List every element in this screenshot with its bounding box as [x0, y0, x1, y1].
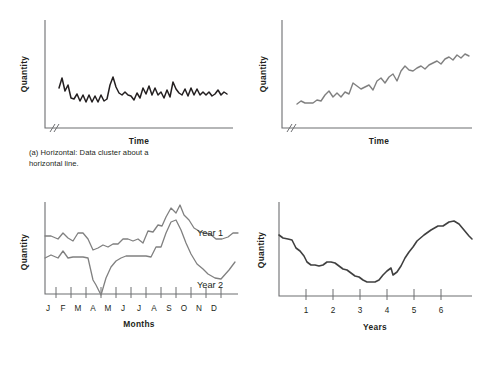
panel-d-tick-5: 6	[439, 306, 444, 315]
panel-c-series-year2-label: Year 2	[197, 280, 223, 290]
panel-d-cyclical: 1 2 3 4 5 6 Years Quantity (d) Cyclical:…	[251, 190, 502, 380]
panel-b-plot: Time Quantity	[251, 0, 502, 150]
panel-c-tick-4: M	[105, 304, 112, 313]
panel-a-caption: (a) Horizontal: Data cluster about a hor…	[29, 148, 229, 169]
panel-a-xlabel: Time	[129, 136, 150, 146]
panel-c-series-year1-label: Year 1	[197, 228, 223, 238]
panel-c-tick-6: J	[137, 304, 141, 313]
panel-b-ylabel: Quantity	[258, 56, 268, 92]
panel-c-ylabel: Quantity	[19, 234, 29, 270]
panel-a-ylabel: Quantity	[19, 56, 29, 92]
figure-sheet: Time Quantity (a) Horizontal: Data clust…	[0, 0, 502, 380]
panel-c-tick-0: J	[46, 304, 50, 313]
panel-c-tick-3: A	[90, 304, 96, 313]
panel-a-data-line	[59, 77, 227, 102]
panel-d-data-line	[279, 221, 472, 282]
panel-d-tick-0: 1	[304, 306, 309, 315]
panel-c-tick-7: A	[151, 304, 157, 313]
panel-a-axes	[45, 20, 233, 128]
panel-d-tick-2: 3	[358, 306, 363, 315]
panel-c-x-tick-labels: J F M A M J J A S O N D	[46, 304, 217, 313]
panel-c-tick-9: O	[181, 304, 187, 313]
panel-c-tick-1: F	[60, 304, 65, 313]
panel-a-plot: Time Quantity	[0, 0, 251, 150]
panel-c-tick-11: D	[211, 304, 217, 313]
panel-b-data-line	[297, 54, 469, 104]
panel-d-xlabel: Years	[363, 322, 387, 332]
panel-c-plot: J F M A M J J A S O N D Year 1 Year 2 Mo…	[0, 190, 251, 340]
panel-c-seasonal: J F M A M J J A S O N D Year 1 Year 2 Mo…	[0, 190, 251, 380]
panel-c-tick-5: J	[121, 304, 125, 313]
panel-c-xlabel: Months	[123, 319, 155, 329]
panel-c-tick-2: M	[75, 304, 82, 313]
panel-d-x-tick-labels: 1 2 3 4 5 6	[304, 306, 444, 315]
panel-d-tick-4: 5	[412, 306, 417, 315]
panel-d-plot: 1 2 3 4 5 6 Years Quantity	[251, 190, 502, 340]
panel-c-tick-10: N	[196, 304, 202, 313]
panel-c-tick-8: S	[166, 304, 172, 313]
panel-d-tick-3: 4	[385, 306, 390, 315]
panel-b-trend: Time Quantity (b) Trend: Data consistent…	[251, 0, 502, 190]
panel-a-horizontal: Time Quantity (a) Horizontal: Data clust…	[0, 0, 251, 190]
panel-b-axes	[282, 20, 472, 128]
panel-d-x-ticks	[306, 289, 441, 300]
panel-b-xlabel: Time	[369, 136, 390, 146]
panel-d-ylabel: Quantity	[256, 232, 266, 268]
panel-d-tick-1: 2	[331, 306, 336, 315]
